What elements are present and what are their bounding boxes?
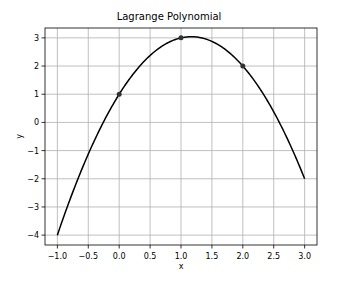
x-tick-label: −0.5 bbox=[79, 252, 98, 261]
y-tick-label: −4 bbox=[27, 231, 39, 240]
chart-canvas: −1.0−0.50.00.51.01.52.02.53.0−4−3−2−1012… bbox=[0, 0, 338, 285]
x-tick-label: 2.5 bbox=[267, 252, 280, 261]
y-tick-label: 1 bbox=[34, 90, 39, 99]
y-tick-label: 2 bbox=[34, 62, 39, 71]
data-point-marker bbox=[179, 35, 184, 40]
x-tick-label: 0.5 bbox=[144, 252, 157, 261]
x-tick-label: 1.5 bbox=[206, 252, 219, 261]
x-tick-label: 1.0 bbox=[175, 252, 188, 261]
y-tick-label: −1 bbox=[27, 147, 39, 156]
x-axis-label: x bbox=[179, 262, 184, 271]
x-tick-label: 0.0 bbox=[113, 252, 126, 261]
y-tick-label: −2 bbox=[27, 175, 39, 184]
x-tick-label: −1.0 bbox=[48, 252, 67, 261]
y-axis-label: y bbox=[15, 134, 24, 139]
data-point-marker bbox=[240, 64, 245, 69]
x-tick-label: 2.0 bbox=[236, 252, 249, 261]
y-tick-label: 3 bbox=[34, 34, 39, 43]
y-tick-label: −3 bbox=[27, 203, 39, 212]
data-point-marker bbox=[117, 92, 122, 97]
x-tick-label: 3.0 bbox=[298, 252, 311, 261]
y-tick-label: 0 bbox=[34, 118, 39, 127]
